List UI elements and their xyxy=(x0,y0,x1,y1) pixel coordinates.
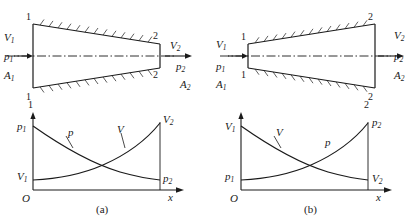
graph-a-axes xyxy=(30,112,184,193)
duct-a-station-2-bottom: 2 xyxy=(153,70,158,80)
duct-b-inlet-flow-arrow xyxy=(228,53,248,59)
duct-b-inlet-area-label: A1 xyxy=(216,79,226,90)
graph-a-left-lower-label: V1 xyxy=(17,171,27,182)
duct-b-outlet-velocity-label: V2 xyxy=(394,30,404,41)
duct-b-station-2-top: 2 xyxy=(368,12,373,22)
panel-a-drawing xyxy=(0,0,208,221)
graph-b-pressure-curve-label: p xyxy=(325,137,331,148)
graph-a-right-upper-label: V2 xyxy=(163,114,173,125)
duct-a-inlet-velocity-label: V1 xyxy=(4,32,14,43)
duct-b-outlet-area-label: A2 xyxy=(394,70,404,81)
graph-a-top-tick-label: 1 xyxy=(28,100,33,110)
duct-a-outlet-area-label: A2 xyxy=(180,79,190,90)
duct-b-lower-hatching xyxy=(255,69,367,92)
duct-a-inlet-pressure-label: p1 xyxy=(4,51,13,62)
duct-a-lower-hatching xyxy=(40,70,152,93)
duct-b-lower-wall xyxy=(248,68,375,88)
graph-b-right-upper-label: p2 xyxy=(372,117,381,128)
graph-b-right-lower-label: V2 xyxy=(372,173,382,184)
graph-b-velocity-curve-label: V xyxy=(276,127,283,138)
graph-b-pressure-curve xyxy=(241,123,368,180)
graph-a-pressure-curve-label: p xyxy=(68,127,74,138)
graph-a-pressure-curve xyxy=(33,126,160,180)
duct-a-upper-wall xyxy=(33,24,160,44)
duct-a-station-2-top: 2 xyxy=(153,31,158,41)
duct-b-station-1-bottom: 1 xyxy=(241,70,246,80)
duct-a-station-1-top: 1 xyxy=(26,12,31,22)
duct-a-inlet-flow-arrow xyxy=(14,53,33,59)
graph-b-origin-label: O xyxy=(230,193,238,204)
figure-panel-a: 1 1 2 2 V1 p1 A1 V2 p2 A2 1 p1 V1 V2 p2 … xyxy=(0,0,208,221)
duct-a-outlet-flow-arrow xyxy=(165,53,192,59)
graph-a-velocity-curve xyxy=(33,123,160,180)
figure-panel-b: 1 1 2 2 V1 p1 A1 V2 p2 A2 2 V1 p1 p2 V2 … xyxy=(208,0,416,221)
panel-b-drawing xyxy=(208,0,416,221)
panel-a-caption: (a) xyxy=(96,204,108,215)
duct-a-upper-hatching xyxy=(40,20,152,43)
graph-a-origin-label: O xyxy=(22,193,30,204)
duct-b-upper-wall xyxy=(248,24,375,44)
duct-a-inlet-area-label: A1 xyxy=(4,70,14,81)
graph-a-x-axis-label: x xyxy=(168,192,173,203)
graph-a-velocity-curve-label: V xyxy=(117,124,124,135)
graph-b-velocity-curve xyxy=(241,126,368,180)
duct-b-outlet-pressure-label: p2 xyxy=(394,51,403,62)
duct-a-lower-wall xyxy=(33,68,160,88)
graph-b-x-axis-label: x xyxy=(376,192,381,203)
graph-b-left-upper-label: V1 xyxy=(225,121,235,132)
duct-b-station-1-top: 1 xyxy=(241,32,246,42)
graph-a-label-leaders xyxy=(66,133,125,148)
duct-b-inlet-velocity-label: V1 xyxy=(216,39,226,50)
duct-b-inlet-pressure-label: p1 xyxy=(216,61,225,72)
panel-b-caption: (b) xyxy=(304,204,317,215)
graph-b-left-lower-label: p1 xyxy=(225,171,234,182)
duct-b-upper-hatching xyxy=(255,20,367,43)
graph-a-right-lower-label: p2 xyxy=(163,173,172,184)
graph-b-axes xyxy=(238,112,392,193)
duct-a-outlet-pressure-label: p2 xyxy=(176,61,185,72)
graph-a-left-upper-label: p1 xyxy=(17,121,26,132)
duct-a-outlet-velocity-label: V2 xyxy=(170,40,180,51)
graph-b-top-tick-label: 2 xyxy=(364,100,369,110)
